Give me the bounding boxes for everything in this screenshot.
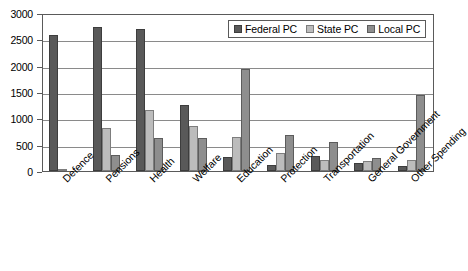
legend-item-state: State PC xyxy=(306,23,358,35)
y-axis-tick-label: 3000 xyxy=(10,8,33,20)
legend-swatch-icon xyxy=(367,25,375,33)
bar xyxy=(267,165,276,171)
x-axis: DefencePensionsHealthWelfareEducationPro… xyxy=(42,176,434,271)
bar xyxy=(241,69,250,171)
y-axis-tick-label: 0 xyxy=(27,166,33,178)
bar xyxy=(180,105,189,171)
bar xyxy=(93,27,102,171)
y-axis-tick-label: 2000 xyxy=(10,61,33,73)
legend-swatch-icon xyxy=(234,25,242,33)
bar xyxy=(398,166,407,171)
bar xyxy=(223,157,232,171)
legend-item-federal: Federal PC xyxy=(234,23,297,35)
legend-label: State PC xyxy=(317,23,358,35)
bar xyxy=(189,126,198,171)
legend-label: Local PC xyxy=(378,23,420,35)
y-axis: 300025002000150010005000 xyxy=(0,0,42,186)
legend-swatch-icon xyxy=(306,25,314,33)
chart-legend: Federal PCState PCLocal PC xyxy=(228,20,426,38)
y-axis-tick-label: 500 xyxy=(16,140,33,152)
bar xyxy=(354,163,363,171)
bar xyxy=(145,110,154,171)
bar-group xyxy=(87,15,131,171)
y-axis-tick-label: 1500 xyxy=(10,87,33,99)
y-axis-tick-label: 1000 xyxy=(10,113,33,125)
bar-group xyxy=(43,15,87,171)
bar-group xyxy=(217,15,261,171)
y-axis-tick-label: 2500 xyxy=(10,34,33,46)
bar xyxy=(232,137,241,171)
bar xyxy=(102,128,111,171)
bar-group xyxy=(174,15,218,171)
bar xyxy=(136,29,145,171)
y-axis-tick-mark xyxy=(37,172,42,173)
bar-group xyxy=(130,15,174,171)
legend-label: Federal PC xyxy=(245,23,297,35)
bar xyxy=(49,35,58,171)
legend-item-local: Local PC xyxy=(367,23,420,35)
